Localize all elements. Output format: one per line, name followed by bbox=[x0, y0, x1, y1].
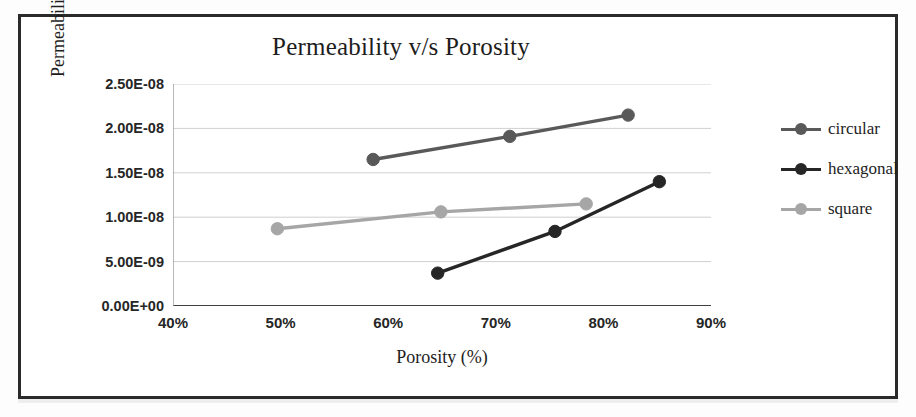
x-tick-label: 50% bbox=[266, 314, 296, 331]
x-tick-label: 40% bbox=[158, 314, 188, 331]
legend-item-hexagonal[interactable]: hexagonal bbox=[781, 149, 911, 189]
y-tick-label: 2.00E-08 bbox=[105, 120, 164, 136]
series-line-hexagonal[interactable] bbox=[438, 182, 660, 273]
legend-marker-circular bbox=[781, 123, 821, 135]
chart-legend: circular hexagonal square bbox=[781, 109, 911, 229]
data-point-square[interactable] bbox=[580, 198, 592, 210]
legend-label-square: square bbox=[828, 199, 872, 219]
plot-area: 0.00E+005.00E-091.00E-081.50E-082.00E-08… bbox=[173, 84, 711, 306]
y-tick-label: 1.00E-08 bbox=[105, 209, 164, 225]
series-line-circular[interactable] bbox=[373, 115, 628, 159]
series-line-square[interactable] bbox=[277, 204, 586, 229]
data-point-hexagonal[interactable] bbox=[653, 175, 665, 187]
data-point-hexagonal[interactable] bbox=[549, 225, 561, 237]
x-tick-label: 70% bbox=[481, 314, 511, 331]
legend-dot-hexagonal bbox=[795, 163, 807, 175]
data-point-square[interactable] bbox=[271, 223, 283, 235]
screenshot-root: Permeability v/s Porosity Permeability (… bbox=[0, 0, 916, 417]
data-point-square[interactable] bbox=[435, 206, 447, 218]
chart-title: Permeability v/s Porosity bbox=[21, 33, 781, 61]
chart-frame: Permeability v/s Porosity Permeability (… bbox=[18, 14, 898, 399]
y-axis-title-text: Permeability (m2) bbox=[48, 0, 68, 77]
data-point-circular[interactable] bbox=[622, 109, 634, 121]
x-tick-label: 90% bbox=[696, 314, 726, 331]
y-tick-label: 1.50E-08 bbox=[105, 165, 164, 181]
data-point-hexagonal[interactable] bbox=[432, 267, 444, 279]
y-tick-label: 5.00E-09 bbox=[105, 254, 164, 270]
legend-label-hexagonal: hexagonal bbox=[828, 159, 898, 179]
legend-dot-circular bbox=[795, 123, 807, 135]
legend-label-circular: circular bbox=[828, 119, 880, 139]
y-tick-label: 0.00E+00 bbox=[102, 298, 165, 314]
y-axis-title: Permeability (m2) bbox=[47, 0, 69, 113]
data-point-circular[interactable] bbox=[367, 153, 379, 165]
legend-marker-hexagonal bbox=[781, 163, 821, 175]
legend-dot-square bbox=[795, 203, 807, 215]
x-tick-label: 80% bbox=[588, 314, 618, 331]
legend-item-circular[interactable]: circular bbox=[781, 109, 911, 149]
legend-item-square[interactable]: square bbox=[781, 189, 911, 229]
data-point-circular[interactable] bbox=[504, 130, 516, 142]
y-tick-label: 2.50E-08 bbox=[105, 76, 164, 92]
plot-svg bbox=[173, 84, 711, 306]
x-tick-label: 60% bbox=[373, 314, 403, 331]
x-axis-title: Porosity (%) bbox=[173, 347, 711, 368]
legend-marker-square bbox=[781, 203, 821, 215]
scan-edge bbox=[18, 399, 898, 403]
